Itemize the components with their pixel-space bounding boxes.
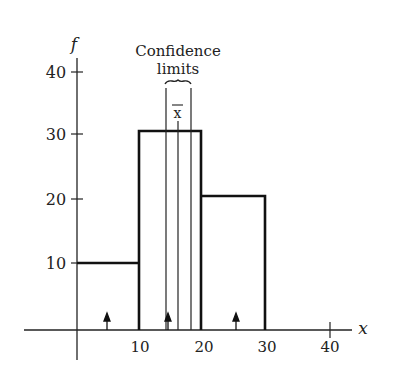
mean-label: x — [172, 105, 183, 121]
histogram-bars — [77, 131, 265, 330]
y-tick-labels: 40 30 20 10 — [46, 63, 66, 273]
svg-text:20: 20 — [194, 338, 213, 356]
histogram-chart: 40 30 20 10 10 20 30 40 f x x Confidence… — [0, 0, 394, 385]
svg-text:40: 40 — [320, 338, 339, 356]
confidence-label-line1: Confidence — [135, 42, 221, 60]
svg-text:10: 10 — [46, 254, 66, 273]
confidence-label-line2: limits — [157, 60, 199, 78]
y-axis-label: f — [69, 34, 80, 54]
x-tick-labels: 10 20 30 40 — [130, 338, 339, 356]
svg-text:30: 30 — [257, 338, 276, 356]
svg-text:x: x — [174, 105, 182, 121]
svg-text:40: 40 — [46, 63, 66, 82]
svg-text:20: 20 — [46, 190, 66, 209]
svg-text:30: 30 — [46, 125, 66, 144]
x-axis-label: x — [358, 318, 368, 338]
brace-icon — [165, 80, 191, 84]
midpoint-arrows — [104, 313, 239, 330]
svg-text:10: 10 — [130, 338, 149, 356]
